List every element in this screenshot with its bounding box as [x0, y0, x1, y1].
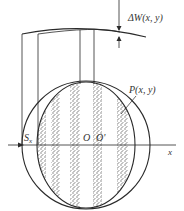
shear-arrow-icon — [18, 143, 24, 148]
shearing-interferogram-diagram: ΔW(x, y) x Sx O O' P(x, y) — [0, 0, 184, 211]
origin-shifted-label: O' — [96, 132, 106, 143]
shear-label: Sx — [24, 132, 33, 145]
arrowhead-up-icon — [117, 36, 122, 41]
x-axis-label: x — [167, 147, 172, 157]
delta-w-label: ΔW(x, y) — [127, 12, 163, 24]
arrowhead-down-icon — [117, 26, 122, 31]
point-label: P(x, y) — [128, 84, 156, 96]
origin-label: O — [83, 132, 90, 143]
